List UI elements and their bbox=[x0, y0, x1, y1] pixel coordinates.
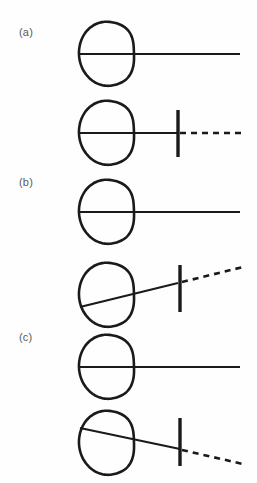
a-top-group bbox=[79, 22, 240, 86]
c-top-group bbox=[79, 335, 240, 399]
eye-with-lens-tilted-up-visual-axis bbox=[80, 283, 178, 307]
c-bottom-group bbox=[79, 411, 243, 475]
a-bottom-group bbox=[79, 101, 243, 165]
b-bottom-group bbox=[79, 263, 243, 327]
eye-diagram-svg bbox=[0, 0, 257, 483]
b-top-group bbox=[79, 180, 240, 244]
panel-a bbox=[79, 22, 243, 165]
panel-c bbox=[79, 335, 243, 475]
panel-b bbox=[79, 180, 243, 327]
eye-with-lens-tilted-down-refracted-ray bbox=[182, 450, 243, 464]
eye-with-lens-tilted-up-refracted-ray bbox=[182, 267, 243, 282]
figure-root: (a) (b) (c) bbox=[0, 0, 257, 483]
eye-with-lens-tilted-down-globe-outline bbox=[79, 411, 134, 475]
eye-with-lens-tilted-down-visual-axis bbox=[80, 428, 180, 449]
